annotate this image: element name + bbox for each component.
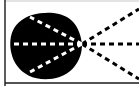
figure-panel (0, 0, 139, 86)
filled-black-blob (10, 13, 82, 80)
figure-canvas (0, 0, 139, 86)
